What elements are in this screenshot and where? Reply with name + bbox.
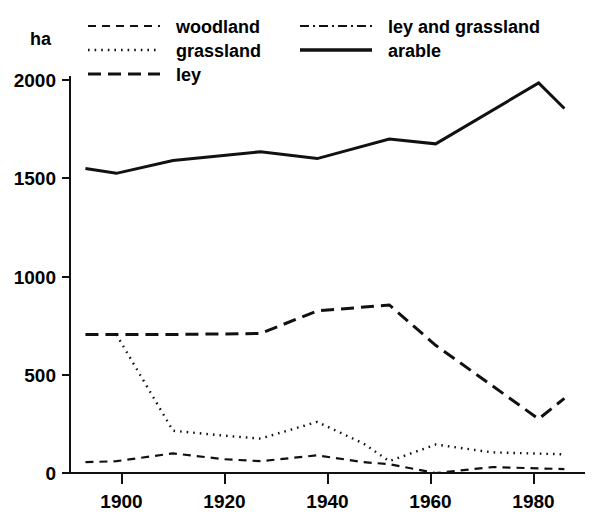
y-tick-label: 1000 (14, 267, 56, 288)
x-tick-label: 1960 (409, 491, 451, 512)
chart-background (0, 0, 600, 520)
y-axis-unit-label: ha (30, 29, 52, 49)
y-tick-label: 500 (24, 365, 56, 386)
y-tick-label: 0 (45, 463, 56, 484)
legend-label-ley-and-grassland: ley and grassland (388, 17, 540, 37)
y-tick-label: 2000 (14, 70, 56, 91)
legend-label-grassland: grassland (176, 41, 261, 61)
chart-canvas: ha woodlandgrasslandleyley and grassland… (0, 0, 600, 520)
y-tick-label: 1500 (14, 168, 56, 189)
legend-label-arable: arable (388, 41, 441, 61)
legend-label-ley: ley (176, 65, 201, 85)
x-tick-label: 1980 (512, 491, 554, 512)
x-tick-label: 1940 (306, 491, 348, 512)
x-tick-label: 1900 (100, 491, 142, 512)
x-tick-label: 1920 (203, 491, 245, 512)
chart-figure: ha woodlandgrasslandleyley and grassland… (0, 0, 600, 520)
legend-label-woodland: woodland (175, 17, 260, 37)
